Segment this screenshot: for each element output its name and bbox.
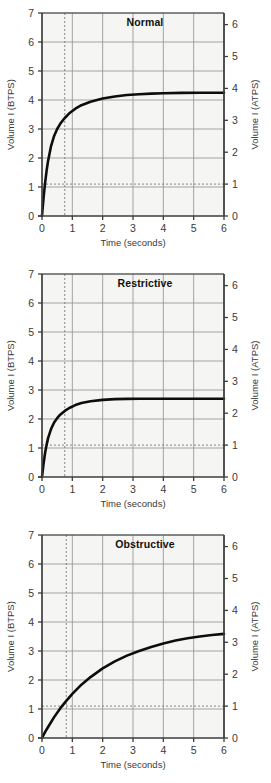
y-tick-label-left: 2 [28, 413, 34, 425]
chart-panel-obstructive: 0123456701234560123456ObstructiveTime (s… [0, 522, 271, 783]
y-axis-left-ticks: 01234567 [28, 268, 42, 483]
y-tick-label-right: 0 [232, 471, 238, 483]
x-tick-label: 4 [160, 744, 166, 756]
y-tick-label-right: 6 [232, 18, 238, 30]
y-tick-label-left: 6 [28, 297, 34, 309]
chart-canvas-0: 0123456701234560123456NormalTime (second… [0, 0, 271, 261]
x-axis-ticks: 0123456 [39, 738, 227, 756]
x-tick-label: 2 [100, 483, 106, 495]
y-tick-label-left: 7 [28, 529, 34, 541]
y-tick-label-left: 5 [28, 587, 34, 599]
x-axis-ticks: 0123456 [39, 477, 227, 495]
y-tick-label-right: 6 [232, 540, 238, 552]
y-tick-label-right: 5 [232, 572, 238, 584]
y-tick-label-right: 0 [232, 210, 238, 222]
x-axis-label: Time (seconds) [100, 237, 165, 248]
chart-title: Restrictive [118, 277, 173, 289]
y-tick-label-right: 3 [232, 375, 238, 387]
y-axis-right-ticks: 0123456 [224, 279, 238, 482]
x-tick-label: 0 [39, 744, 45, 756]
y-tick-label-left: 3 [28, 123, 34, 135]
x-tick-label: 4 [160, 222, 166, 234]
x-axis-ticks: 0123456 [39, 216, 227, 234]
y-tick-label-right: 3 [232, 114, 238, 126]
y-tick-label-right: 5 [232, 50, 238, 62]
y-tick-label-right: 1 [232, 178, 238, 190]
y-tick-label-left: 7 [28, 268, 34, 280]
x-tick-label: 0 [39, 483, 45, 495]
y-tick-label-right: 3 [232, 636, 238, 648]
x-tick-label: 1 [69, 222, 75, 234]
y-tick-label-left: 4 [28, 355, 34, 367]
x-tick-label: 3 [130, 744, 136, 756]
x-tick-label: 5 [191, 744, 197, 756]
y-tick-label-left: 0 [28, 732, 34, 744]
x-tick-label: 3 [130, 222, 136, 234]
y-tick-label-left: 0 [28, 210, 34, 222]
chart-title: Normal [127, 16, 164, 28]
chart-svg-2: 0123456701234560123456ObstructiveTime (s… [0, 522, 271, 783]
chart-panel-restrictive: 0123456701234560123456RestrictiveTime (s… [0, 261, 271, 522]
y-tick-label-left: 5 [28, 326, 34, 338]
y-tick-label-right: 6 [232, 279, 238, 291]
y-tick-label-left: 4 [28, 94, 34, 106]
chart-canvas-2: 0123456701234560123456ObstructiveTime (s… [0, 522, 271, 783]
y-axis-left-ticks: 01234567 [28, 7, 42, 222]
y-axis-left-ticks: 01234567 [28, 529, 42, 744]
y-tick-label-left: 1 [28, 703, 34, 715]
y-tick-label-left: 1 [28, 442, 34, 454]
y-axis-label-left: Volume I (BTPS) [5, 601, 16, 672]
x-tick-label: 6 [221, 222, 227, 234]
y-axis-label-right: Volume I (ATPS) [249, 340, 260, 410]
x-tick-label: 1 [69, 483, 75, 495]
chart-svg-1: 0123456701234560123456RestrictiveTime (s… [0, 261, 271, 522]
y-tick-label-right: 1 [232, 439, 238, 451]
y-tick-label-right: 2 [232, 668, 238, 680]
y-tick-label-left: 3 [28, 645, 34, 657]
y-tick-label-left: 2 [28, 152, 34, 164]
x-tick-label: 3 [130, 483, 136, 495]
y-tick-label-right: 1 [232, 700, 238, 712]
y-axis-right-ticks: 0123456 [224, 18, 238, 221]
y-tick-label-left: 0 [28, 471, 34, 483]
x-tick-label: 2 [100, 222, 106, 234]
y-tick-label-right: 2 [232, 146, 238, 158]
chart-panel-normal: 0123456701234560123456NormalTime (second… [0, 0, 271, 261]
x-tick-label: 5 [191, 483, 197, 495]
y-axis-right-ticks: 0123456 [224, 540, 238, 743]
y-axis-label-right: Volume I (ATPS) [249, 601, 260, 671]
chart-canvas-1: 0123456701234560123456RestrictiveTime (s… [0, 261, 271, 522]
y-axis-label-left: Volume I (BTPS) [5, 340, 16, 411]
y-tick-label-left: 6 [28, 36, 34, 48]
x-tick-label: 2 [100, 744, 106, 756]
y-tick-label-right: 0 [232, 732, 238, 744]
x-tick-label: 1 [69, 744, 75, 756]
x-tick-label: 5 [191, 222, 197, 234]
x-axis-label: Time (seconds) [100, 759, 165, 770]
y-tick-label-left: 6 [28, 558, 34, 570]
y-axis-label-right: Volume I (ATPS) [249, 79, 260, 149]
y-tick-label-left: 1 [28, 181, 34, 193]
y-tick-label-left: 3 [28, 384, 34, 396]
y-tick-label-right: 2 [232, 407, 238, 419]
x-tick-label: 4 [160, 483, 166, 495]
y-tick-label-right: 5 [232, 311, 238, 323]
x-tick-label: 6 [221, 483, 227, 495]
y-tick-label-left: 5 [28, 65, 34, 77]
y-tick-label-right: 4 [232, 82, 238, 94]
chart-title: Obstructive [115, 538, 175, 550]
y-tick-label-right: 4 [232, 604, 238, 616]
x-tick-label: 0 [39, 222, 45, 234]
x-tick-label: 6 [221, 744, 227, 756]
chart-svg-0: 0123456701234560123456NormalTime (second… [0, 0, 271, 261]
y-axis-label-left: Volume I (BTPS) [5, 79, 16, 150]
x-axis-label: Time (seconds) [100, 498, 165, 509]
y-tick-label-left: 4 [28, 616, 34, 628]
y-tick-label-left: 2 [28, 674, 34, 686]
y-tick-label-right: 4 [232, 343, 238, 355]
figure-sheet: 0123456701234560123456NormalTime (second… [0, 0, 271, 783]
y-tick-label-left: 7 [28, 7, 34, 19]
